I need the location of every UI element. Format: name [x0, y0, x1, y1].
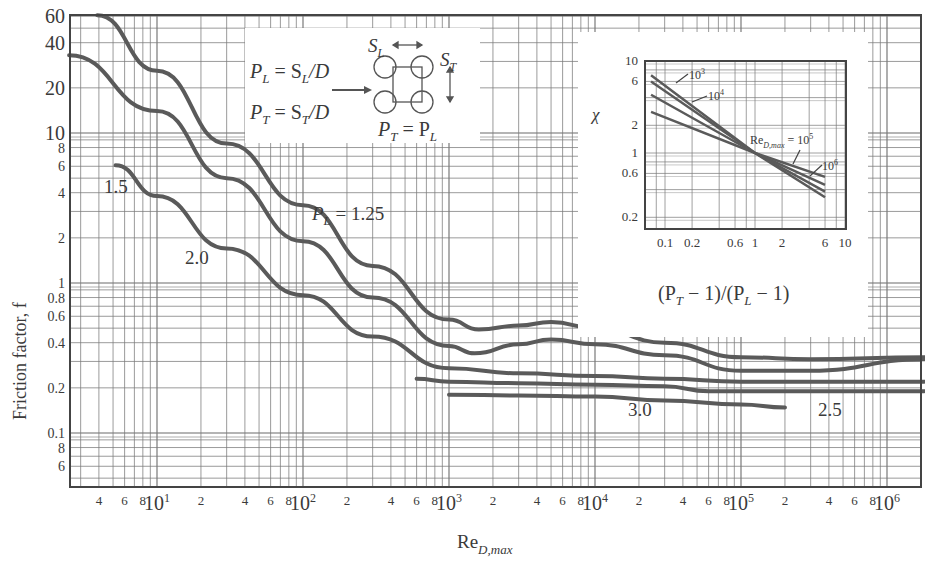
y-tick-label: 0.1	[48, 426, 66, 441]
x-tick-label: 105	[728, 491, 754, 514]
inset-x-tick-label: 6	[822, 235, 829, 250]
x-tick-label: 2	[490, 493, 497, 508]
y-tick-label: 0.4	[48, 336, 66, 351]
y-tick-label: 0.6	[48, 309, 66, 324]
x-axis-title: ReD,max	[457, 531, 513, 557]
x-tick-label: 101	[144, 491, 170, 514]
y-tick-label: 2	[58, 231, 65, 246]
y-tick-label: 20	[45, 77, 65, 99]
y-tick-label: 60	[45, 5, 65, 27]
y-tick-label: 8	[58, 441, 65, 456]
x-tick-label: 4	[96, 493, 103, 508]
inset-y-tick-label: 1	[632, 145, 639, 160]
y-tick-label: 4	[58, 186, 65, 201]
curve-label-2-0: 2.0	[185, 247, 209, 268]
inset-ylabel: χ	[590, 105, 600, 124]
x-tick-label: 6	[121, 493, 128, 508]
inset-x-tick-label: 0.6	[727, 235, 744, 250]
curve-label-1-25: PL = 1.25	[311, 203, 384, 228]
y-tick-label: 0.2	[48, 381, 66, 396]
inset-y-tick-label: 0.2	[622, 209, 638, 224]
curve-label-2-5: 2.5	[818, 399, 842, 420]
x-tick-label: 2	[782, 493, 789, 508]
x-tick-label: 106	[874, 491, 900, 514]
x-tick-label: 102	[290, 491, 316, 514]
y-tick-label: 6	[58, 159, 65, 174]
x-tick-label: 104	[582, 491, 608, 514]
curve-label-3-0: 3.0	[628, 399, 652, 420]
y-tick-label: 6	[58, 459, 65, 474]
x-tick-label: 6	[559, 493, 566, 508]
y-tick-label: 1	[58, 276, 65, 291]
x-tick-label: 2	[636, 493, 643, 508]
y-tick-label: 0.8	[48, 291, 66, 306]
chart-canvas: 4681012468102246810324681042468105246810…	[0, 0, 925, 563]
x-tick-label: 6	[267, 493, 274, 508]
x-tick-label: 6	[851, 493, 858, 508]
x-tick-label: 4	[534, 493, 541, 508]
y-axis-title: Friction factor, f	[10, 300, 40, 420]
x-tick-label: 103	[436, 491, 462, 514]
x-tick-label: 6	[413, 493, 420, 508]
x-tick-label: 6	[705, 493, 712, 508]
inset-x-tick-label: 0.2	[684, 235, 700, 250]
inset-y-tick-label: 6	[632, 73, 639, 88]
inset-y-tick-label: 0.6	[622, 165, 639, 180]
curve-label-1-5: 1.5	[104, 176, 128, 197]
inset-y-tick-label: 2	[632, 117, 639, 132]
inset-x-tick-label: 2	[779, 235, 786, 250]
y-tick-label: 40	[45, 32, 65, 54]
inset-y-tick-label: 10	[625, 53, 638, 68]
friction-factor-chart: 4681012468102246810324681042468105246810…	[0, 0, 925, 563]
x-tick-label: 4	[680, 493, 687, 508]
x-tick-label: 4	[242, 493, 249, 508]
inset-x-tick-label: 10	[839, 235, 852, 250]
diagram-box	[245, 28, 480, 143]
y-tick-label: 8	[58, 141, 65, 156]
x-tick-label: 2	[198, 493, 205, 508]
x-tick-label: 4	[388, 493, 395, 508]
inset-x-tick-label: 0.1	[657, 235, 673, 250]
x-tick-label: 4	[826, 493, 833, 508]
inset-x-tick-label: 1	[752, 235, 759, 250]
x-tick-label: 2	[344, 493, 351, 508]
